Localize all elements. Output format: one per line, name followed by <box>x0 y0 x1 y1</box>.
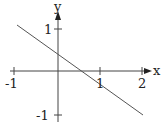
x-axis-arrow-icon <box>144 68 152 74</box>
y-tick-label-neg1: -1 <box>36 108 49 123</box>
line-chart: x y -1 1 2 1 -1 <box>0 0 162 129</box>
x-tick-label-2: 2 <box>138 76 146 91</box>
data-line <box>17 25 143 115</box>
y-tick-label-1: 1 <box>44 22 52 37</box>
x-tick-label-neg1: -1 <box>5 76 18 91</box>
y-axis-label: y <box>53 0 62 14</box>
x-tick-label-1: 1 <box>96 76 104 91</box>
x-axis-label: x <box>153 63 161 78</box>
